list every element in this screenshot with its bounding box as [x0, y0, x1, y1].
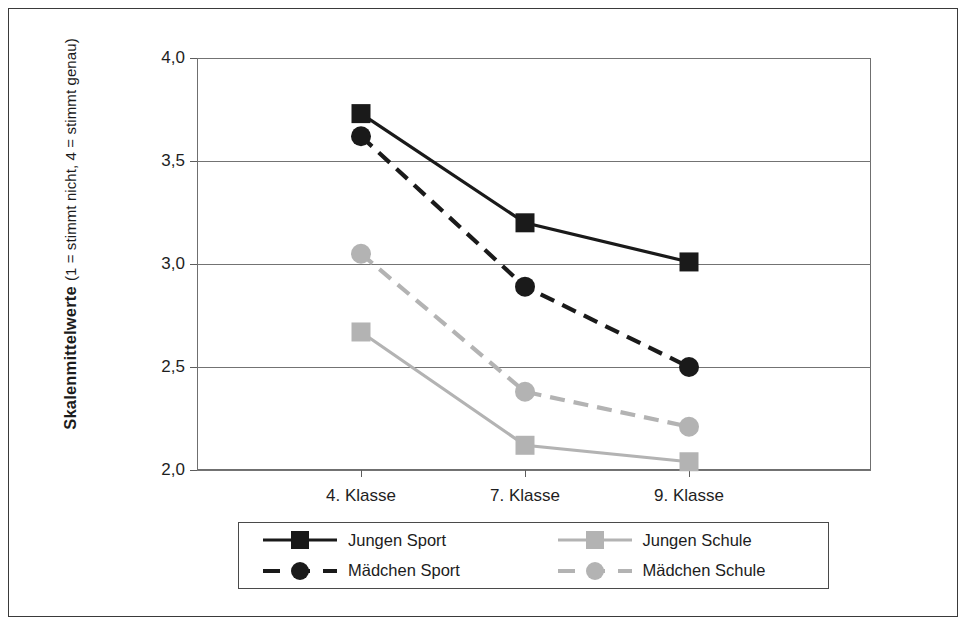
- data-point-square: [680, 452, 699, 471]
- data-point-square: [680, 252, 699, 271]
- y-tick-mark: [190, 161, 197, 162]
- x-tick-label: 9. Klasse: [654, 486, 724, 506]
- data-point-square: [352, 322, 371, 341]
- y-tick-mark: [190, 367, 197, 368]
- x-tick-mark: [525, 470, 526, 477]
- series-line: [361, 114, 689, 262]
- legend-swatch-jungen-sport: [261, 531, 339, 549]
- series-jungen-sport: [352, 104, 699, 271]
- chart-legend: Jungen Sport Jungen Schule Mädchen Sport…: [238, 522, 829, 589]
- legend-swatch-maedchen-schule: [556, 562, 634, 580]
- legend-label-jungen-schule: Jungen Schule: [643, 531, 752, 550]
- data-point-circle: [679, 417, 699, 437]
- figure-border: Skalenmittelwerte (1 = stimmt nicht, 4 =…: [8, 8, 958, 617]
- data-point-circle: [679, 357, 699, 377]
- x-tick-label: 7. Klasse: [490, 486, 560, 506]
- legend-label-maedchen-schule: Mädchen Schule: [643, 561, 766, 580]
- y-axis-title: Skalenmittelwerte (1 = stimmt nicht, 4 =…: [43, 69, 97, 399]
- gridline: [197, 470, 871, 471]
- x-tick-mark: [361, 470, 362, 477]
- data-point-square: [352, 104, 371, 123]
- y-tick-mark: [190, 58, 197, 59]
- y-tick-label: 3,0: [161, 254, 185, 274]
- y-tick-label: 2,0: [161, 460, 185, 480]
- y-axis-title-sub: (1 = stimmt nicht, 4 = stimmt genau): [62, 38, 79, 281]
- y-tick-label: 3,5: [161, 151, 185, 171]
- data-point-square: [516, 213, 535, 232]
- data-point-circle: [515, 277, 535, 297]
- legend-entry-jungen-schule[interactable]: Jungen Schule: [534, 525, 829, 556]
- y-tick-label: 4,0: [161, 48, 185, 68]
- chart-figure: Skalenmittelwerte (1 = stimmt nicht, 4 =…: [0, 0, 968, 627]
- legend-swatch-maedchen-sport: [261, 562, 339, 580]
- data-point-circle: [515, 382, 535, 402]
- y-tick-label: 2,5: [161, 357, 185, 377]
- data-point-circle: [351, 244, 371, 264]
- x-tick-label: 4. Klasse: [326, 486, 396, 506]
- data-point-square: [516, 436, 535, 455]
- plot-area: 2,02,53,03,54,0 4. Klasse7. Klasse9. Kla…: [197, 58, 871, 470]
- series-layer: [197, 58, 871, 470]
- data-point-circle: [351, 126, 371, 146]
- legend-label-jungen-sport: Jungen Sport: [348, 531, 446, 550]
- legend-entry-maedchen-schule[interactable]: Mädchen Schule: [534, 556, 829, 587]
- y-axis-title-main: Skalenmittelwerte: [61, 286, 80, 430]
- legend-entry-jungen-sport[interactable]: Jungen Sport: [239, 525, 534, 556]
- y-tick-mark: [190, 264, 197, 265]
- legend-entry-maedchen-sport[interactable]: Mädchen Sport: [239, 556, 534, 587]
- legend-label-maedchen-sport: Mädchen Sport: [348, 561, 460, 580]
- legend-swatch-jungen-schule: [556, 531, 634, 549]
- series-m-dchen-schule: [351, 244, 699, 437]
- y-tick-mark: [190, 470, 197, 471]
